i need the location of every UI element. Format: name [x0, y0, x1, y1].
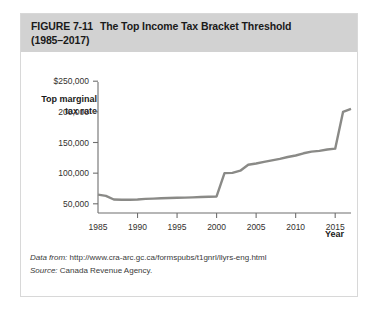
y-tick-label: 200,000: [58, 107, 89, 117]
source-note: Data from: http://www.cra-arc.gc.ca/form…: [30, 252, 347, 277]
x-axis-title: Year: [325, 229, 344, 239]
chart-plot-area: Top marginal tax rate $250,000200,000150…: [21, 52, 357, 252]
y-tick-label: 100,000: [58, 168, 89, 178]
figure-card: FIGURE 7-11The Top Income Tax Bracket Th…: [20, 13, 358, 297]
y-tick-label: $250,000: [54, 76, 90, 86]
data-from-url: http://www.cra-arc.gc.ca/formspubs/t1gnr…: [70, 253, 267, 262]
source-label: Source:: [30, 266, 58, 275]
y-axis-tick-labels: $250,000200,000150,000100,00050,000: [54, 76, 90, 209]
figure-header: FIGURE 7-11The Top Income Tax Bracket Th…: [21, 14, 357, 52]
x-tick-label: 2010: [286, 222, 305, 232]
x-tick-label: 1995: [168, 222, 187, 232]
figure-year-range: (1985–2017): [31, 34, 89, 46]
data-from-line: Data from: http://www.cra-arc.gc.ca/form…: [30, 252, 347, 265]
figure-number-label: FIGURE 7-11: [31, 20, 93, 32]
x-tick-label: 2000: [207, 222, 226, 232]
y-tick-label: 150,000: [58, 138, 89, 148]
y-tick-label: 50,000: [63, 199, 89, 209]
x-tick-label: 1990: [128, 222, 147, 232]
data-series-line: [98, 109, 351, 200]
x-axis-tick-labels: 1985199019952000200520102015: [89, 222, 345, 232]
x-tick-label: 2005: [247, 222, 266, 232]
figure-title-row-1: FIGURE 7-11The Top Income Tax Bracket Th…: [31, 19, 348, 33]
x-tick-label: 1985: [89, 222, 108, 232]
line-chart: $250,000200,000150,000100,00050,000 1985…: [21, 52, 357, 252]
figure-title-text: The Top Income Tax Bracket Threshold: [100, 20, 291, 32]
figure-title-row-2: (1985–2017): [31, 33, 348, 47]
source-value: Canada Revenue Agency.: [60, 266, 152, 275]
data-from-label: Data from:: [30, 253, 67, 262]
source-line: Source: Canada Revenue Agency.: [30, 265, 347, 278]
